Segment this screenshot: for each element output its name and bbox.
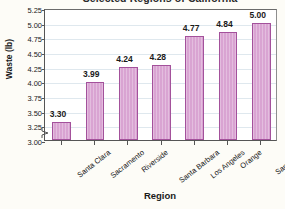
bar-value-label: 4.84 (215, 19, 234, 29)
y-tick-label: 4.00 (12, 79, 42, 88)
x-category-label: Sacramento (108, 148, 145, 180)
plot-area: 3.003.253.503.754.004.254.504.755.005.25… (44, 9, 277, 141)
chart-title: Selected Regions of California (40, 0, 280, 4)
bar[interactable]: 3.30 (52, 122, 71, 140)
bar-slot: 3.99 (78, 10, 111, 140)
x-category-label: Santa Clara (75, 148, 112, 179)
bar[interactable]: 4.77 (185, 36, 204, 140)
x-tick-mark (194, 141, 195, 145)
x-tick-mark (227, 141, 228, 145)
bar-slot: 4.28 (145, 10, 178, 140)
bar[interactable]: 4.28 (152, 65, 171, 140)
bar[interactable]: 5.00 (252, 23, 271, 140)
bar-value-label: 4.77 (182, 23, 201, 33)
bar-value-label: 3.30 (49, 109, 68, 119)
bar-chart: Selected Regions of California Waste (lb… (0, 0, 285, 209)
bar-value-label: 5.00 (248, 10, 267, 20)
x-axis-title: Region (40, 190, 280, 201)
x-tick-mark (61, 141, 62, 145)
y-tick-label: 3.00 (12, 138, 42, 147)
x-tick-mark (260, 141, 261, 145)
x-tick-mark (161, 141, 162, 145)
y-tick-label: 4.75 (12, 35, 42, 44)
bar-value-label: 3.99 (82, 69, 101, 79)
bar-slot: 3.30 (45, 10, 78, 140)
bar-slot: 4.24 (112, 10, 145, 140)
x-category-label: Riverside (140, 148, 170, 174)
x-tick-mark (127, 141, 128, 145)
y-tick-label: 4.50 (12, 50, 42, 59)
bar-slot: 4.84 (211, 10, 244, 140)
bar-slot: 4.77 (178, 10, 211, 140)
y-tick-label: 3.50 (12, 108, 42, 117)
y-tick-mark (42, 142, 45, 143)
x-tick-mark (94, 141, 95, 145)
y-tick-label: 3.75 (12, 94, 42, 103)
bar-value-label: 4.28 (149, 52, 168, 62)
bar[interactable]: 3.99 (86, 82, 105, 140)
bar[interactable]: 4.84 (219, 32, 238, 140)
x-category-label: San Diego (274, 148, 285, 177)
y-tick-label: 5.25 (12, 6, 42, 15)
bar[interactable]: 4.24 (119, 67, 138, 140)
y-tick-label: 3.25 (12, 123, 42, 132)
y-tick-label: 5.00 (12, 20, 42, 29)
y-tick-label: 4.25 (12, 64, 42, 73)
bar-value-label: 4.24 (115, 54, 134, 64)
bars: 3.303.994.244.284.774.845.00 (45, 10, 276, 140)
bar-slot: 5.00 (245, 10, 278, 140)
